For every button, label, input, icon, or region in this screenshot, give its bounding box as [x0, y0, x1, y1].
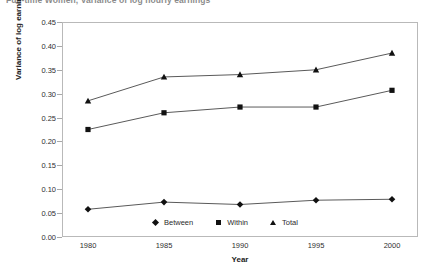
y-tick-label: 0.35 [30, 65, 56, 74]
square-marker-icon [215, 219, 222, 226]
x-tick-label: 1990 [218, 241, 262, 250]
y-tick-label: 0.45 [30, 18, 56, 27]
x-tick-label: 1985 [142, 241, 186, 250]
y-axis-tick-labels: 0.000.050.100.150.200.250.300.350.400.45 [26, 0, 56, 280]
y-tick-label: 0.30 [30, 89, 56, 98]
chart-legend: BetweenWithinTotal [152, 218, 298, 227]
diamond-marker-icon-shape [152, 219, 159, 226]
y-tick-mark [57, 237, 62, 238]
triangle-marker-icon-shape [270, 220, 276, 225]
triangle-marker-icon [270, 219, 277, 226]
y-tick-label: 0.05 [30, 209, 56, 218]
square-marker-icon-shape [216, 220, 221, 225]
legend-label: Within [227, 218, 248, 227]
y-tick-label: 0.10 [30, 185, 56, 194]
y-tick-label: 0.00 [30, 233, 56, 242]
y-tick-label: 0.40 [30, 41, 56, 50]
x-tick-label: 1995 [294, 241, 338, 250]
x-tick-label: 2000 [370, 241, 414, 250]
legend-item-between: Between [152, 218, 193, 227]
legend-item-within: Within [215, 218, 248, 227]
chart-figure: Full-time Women, Variance of log hourly … [0, 0, 434, 280]
plot-area [62, 22, 418, 237]
legend-label: Between [164, 218, 193, 227]
legend-label: Total [282, 218, 298, 227]
y-tick-label: 0.15 [30, 161, 56, 170]
x-axis-title: Year [62, 255, 418, 264]
x-tick-label: 1980 [66, 241, 110, 250]
diamond-marker-icon [152, 219, 159, 226]
legend-item-total: Total [270, 218, 298, 227]
y-tick-label: 0.25 [30, 113, 56, 122]
y-tick-label: 0.20 [30, 137, 56, 146]
